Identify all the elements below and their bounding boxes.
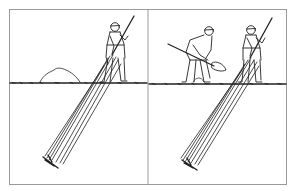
two-panel-drawing: [0, 0, 296, 191]
shovel-handle: [168, 44, 214, 66]
drive-rod-left: [45, 55, 121, 164]
illustration: [0, 0, 296, 191]
worker-left: [100, 16, 134, 82]
drive-rod-right: [181, 58, 259, 165]
right-panel: [149, 18, 286, 170]
soil-mound: [40, 68, 80, 82]
left-panel: [10, 16, 147, 168]
worker-shoveling: [168, 27, 226, 82]
